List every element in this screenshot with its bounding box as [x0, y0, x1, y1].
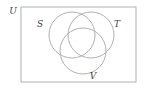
set-circle-t	[68, 12, 114, 58]
venn-diagram-canvas: U S T V	[0, 0, 144, 90]
set-label-v: V	[90, 71, 98, 81]
set-label-t: T	[114, 19, 121, 29]
set-label-s: S	[37, 19, 43, 29]
set-circle-v	[60, 28, 106, 74]
universe-label: U	[9, 6, 17, 16]
venn-diagram-figure: U S T V	[0, 0, 144, 90]
set-circle-s	[49, 12, 95, 58]
